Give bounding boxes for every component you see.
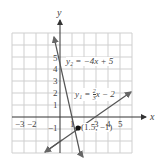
x-tick-4: 4 bbox=[106, 120, 111, 129]
x-tick-5: 5 bbox=[118, 120, 123, 129]
intersection-point bbox=[75, 125, 80, 130]
y-tick-neg1: −1 bbox=[48, 124, 58, 133]
y-tick-2: 2 bbox=[53, 89, 58, 98]
y-tick-3: 3 bbox=[53, 77, 58, 86]
x-tick-3: 3 bbox=[94, 120, 99, 129]
x-tick-neg2: −2 bbox=[27, 120, 37, 129]
x-axis-label: x bbox=[150, 112, 154, 122]
y-tick-4: 4 bbox=[53, 65, 58, 74]
y-tick-5: 5 bbox=[53, 54, 58, 63]
y-tick-1: 1 bbox=[53, 101, 58, 110]
x-tick-neg3: −3 bbox=[15, 120, 25, 129]
equation-y1: y₁ = 23x − 2 bbox=[75, 88, 115, 101]
x-tick-1: 1 bbox=[70, 120, 75, 129]
y-axis-label: y bbox=[57, 8, 61, 18]
graph-canvas bbox=[0, 0, 160, 161]
equation-y2: y₂ = −4x + 5 bbox=[66, 57, 113, 66]
